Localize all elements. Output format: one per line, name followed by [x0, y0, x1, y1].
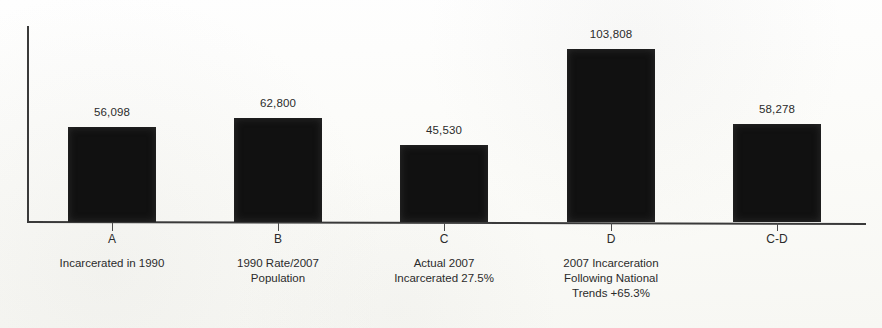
bar-value-label-c: 45,530	[400, 124, 488, 136]
bar-c	[400, 145, 488, 222]
category-description-b-line-2: Population	[198, 271, 358, 286]
category-key-b: B	[228, 232, 328, 246]
category-key-c: C	[394, 232, 494, 246]
bar-b	[234, 118, 322, 222]
x-tick-d	[611, 223, 612, 231]
category-description-c-line-2: Incarcerated 27.5%	[364, 271, 524, 286]
bar-value-label-b: 62,800	[234, 97, 322, 109]
bar-chart-figure: 56,098 A Incarcerated in 1990 62,800 B 1…	[0, 0, 882, 328]
bar-value-label-a: 56,098	[68, 106, 156, 118]
category-description-d-line-3: Trends +65.3%	[531, 286, 691, 301]
category-description-b-line-1: 1990 Rate/2007	[198, 256, 358, 271]
category-description-d: 2007 Incarceration Following National Tr…	[531, 256, 691, 301]
bar-d	[567, 49, 655, 222]
category-key-c-minus-d: C-D	[727, 232, 827, 246]
bar-c-minus-d	[733, 124, 821, 222]
y-axis-line	[27, 26, 29, 223]
x-tick-c-minus-d	[777, 223, 778, 231]
category-description-b: 1990 Rate/2007 Population	[198, 256, 358, 286]
bar-value-label-c-minus-d: 58,278	[733, 103, 821, 115]
category-description-d-line-2: Following National	[531, 271, 691, 286]
x-tick-c	[444, 223, 445, 231]
category-key-a: A	[62, 232, 162, 246]
bar-a	[68, 127, 156, 222]
category-description-c-line-1: Actual 2007	[364, 256, 524, 271]
category-key-d: D	[561, 232, 661, 246]
x-tick-b	[278, 223, 279, 231]
category-description-a: Incarcerated in 1990	[22, 256, 202, 271]
plot-area: 56,098 A Incarcerated in 1990 62,800 B 1…	[0, 0, 882, 328]
category-description-d-line-1: 2007 Incarceration	[531, 256, 691, 271]
bar-value-label-d: 103,808	[563, 28, 659, 40]
category-description-a-line-1: Incarcerated in 1990	[22, 256, 202, 271]
category-description-c: Actual 2007 Incarcerated 27.5%	[364, 256, 524, 286]
x-tick-a	[112, 223, 113, 231]
